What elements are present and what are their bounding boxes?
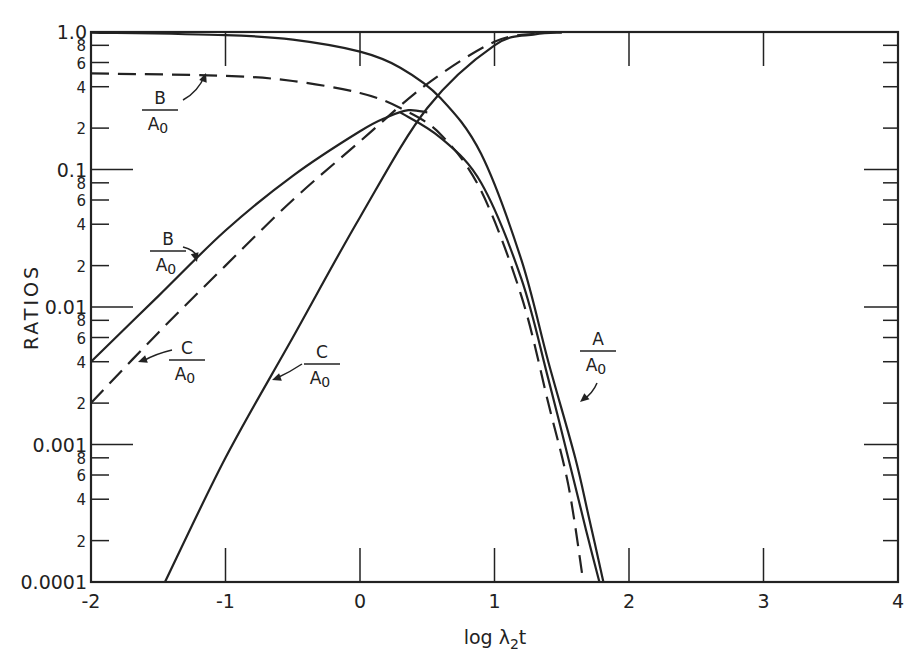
x-tick-label: -1 — [216, 590, 235, 612]
y-minor-label: 2 — [76, 258, 86, 276]
x-tick-label: 1 — [488, 590, 500, 612]
curve-c-a0 — [165, 33, 562, 582]
y-minor-label: 4 — [76, 216, 86, 234]
y-minor-label: 4 — [76, 354, 86, 372]
y-minor-label: 6 — [76, 467, 86, 485]
svg-text:B: B — [162, 229, 174, 249]
y-minor-label: 6 — [76, 55, 86, 73]
x-tick-label: 3 — [757, 590, 769, 612]
svg-text:A0: A0 — [586, 355, 607, 377]
curve-b-a0 — [91, 110, 427, 362]
y-minor-label: 2 — [76, 120, 86, 138]
svg-text:A0: A0 — [148, 114, 169, 136]
chart: -2-1012341.086420.186420.0186420.0018642… — [0, 0, 919, 662]
y-minor-label: 6 — [76, 192, 86, 210]
annotation-c-solid: CA0 — [272, 342, 340, 390]
svg-text:A0: A0 — [310, 368, 331, 390]
y-minor-label: 8 — [76, 312, 86, 330]
y-minor-label: 8 — [76, 450, 86, 468]
y-axis-title: RATIOS — [20, 264, 42, 350]
y-minor-label: 8 — [76, 37, 86, 55]
svg-text:C: C — [181, 338, 193, 358]
curve-a-a0 — [400, 112, 599, 582]
curves — [91, 33, 603, 582]
arrow-head-icon — [138, 355, 148, 363]
annotation-b-dashed: BA0 — [142, 73, 207, 136]
x-tick-label: 4 — [892, 590, 904, 612]
y-minor-label: 2 — [76, 533, 86, 551]
annotation-c-dashed: CA0 — [138, 338, 205, 386]
x-axis-title: log λ2t — [464, 626, 527, 652]
y-minor-label: 6 — [76, 330, 86, 348]
plot-border — [91, 32, 898, 582]
y-minor-label: 8 — [76, 175, 86, 193]
svg-text:C: C — [316, 342, 328, 362]
svg-text:A0: A0 — [156, 255, 177, 277]
y-minor-label: 2 — [76, 395, 86, 413]
x-tick-label: 0 — [354, 590, 366, 612]
curve-b-a0 — [91, 73, 583, 582]
curve-a-a0 — [91, 33, 603, 582]
svg-text:B: B — [154, 88, 166, 108]
x-tick-label: 2 — [623, 590, 635, 612]
x-tick-label: -2 — [82, 590, 101, 612]
arrow-head-icon — [580, 393, 589, 402]
annotation-b-solid: BA0 — [150, 229, 199, 277]
y-minor-label: 4 — [76, 79, 86, 97]
svg-text:A: A — [592, 329, 604, 349]
annotation-a-solid: AA0 — [580, 329, 616, 402]
svg-text:A0: A0 — [175, 364, 196, 386]
plot-frame — [91, 32, 898, 582]
y-major-label: 0.0001 — [21, 571, 87, 593]
arrow-head-icon — [272, 373, 282, 381]
y-minor-label: 4 — [76, 491, 86, 509]
